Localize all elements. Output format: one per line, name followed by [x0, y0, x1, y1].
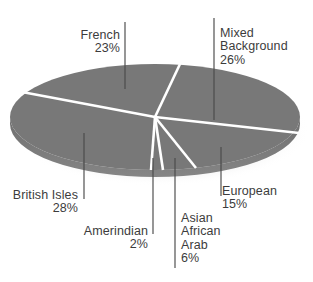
- slice-label-asian-african-arab-value: 6%: [181, 252, 251, 265]
- slice-label-amerindian: Amerindian 2%: [74, 212, 148, 265]
- slice-label-french-value: 23%: [58, 42, 120, 55]
- slice-label-british-isles-value: 28%: [4, 202, 78, 215]
- slice-label-british-isles: British Isles 28%: [4, 176, 78, 229]
- slice-label-french-name: French: [80, 28, 120, 42]
- slice-label-european-name: European: [222, 184, 277, 198]
- slice-label-british-isles-name: British Isles: [13, 188, 78, 202]
- slice-label-mixed-background: Mixed Background 26%: [220, 14, 312, 80]
- slice-label-asian-african-arab-name: Asian African Arab: [181, 211, 221, 251]
- slice-label-mixed-background-value: 26%: [220, 54, 312, 67]
- slice-label-french: French 23%: [58, 16, 120, 69]
- slice-label-mixed-background-name: Mixed Background: [220, 26, 288, 53]
- slice-label-amerindian-value: 2%: [74, 238, 148, 251]
- slice-label-amerindian-name: Amerindian: [84, 224, 148, 238]
- pie-chart: French 23% Mixed Background 26% British …: [0, 0, 313, 282]
- slice-label-asian-african-arab: Asian African Arab 6%: [181, 199, 251, 278]
